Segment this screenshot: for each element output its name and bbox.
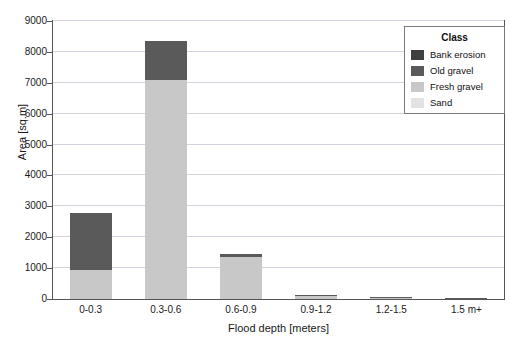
bar-segment[interactable]: [220, 254, 262, 258]
y-tick-label: 0: [0, 294, 47, 304]
bar-segment[interactable]: [70, 270, 112, 299]
y-tick-label: 8000: [0, 47, 47, 57]
legend-item[interactable]: Fresh gravel: [411, 79, 498, 94]
x-axis-title: Flood depth [meters]: [52, 322, 505, 334]
legend-swatch-icon: [411, 82, 424, 92]
legend-item-label: Sand: [430, 98, 452, 108]
legend-title: Class: [411, 32, 498, 43]
gridline: [53, 205, 504, 206]
y-tick-label: 3000: [0, 201, 47, 211]
y-tick-label: 5000: [0, 140, 47, 150]
x-tick-label: 0.3-0.6: [150, 304, 181, 315]
bar-group[interactable]: [145, 21, 187, 299]
bar-group[interactable]: [220, 21, 262, 299]
x-tick-label: 0-0.3: [79, 304, 102, 315]
x-tick-label: 1.2-1.5: [376, 304, 407, 315]
bar-group[interactable]: [70, 21, 112, 299]
gridline: [53, 144, 504, 145]
legend-item[interactable]: Sand: [411, 95, 498, 110]
bar-segment[interactable]: [145, 41, 187, 80]
y-tick-label: 4000: [0, 170, 47, 180]
gridline: [53, 267, 504, 268]
legend-swatch-icon: [411, 98, 424, 108]
y-tick-label: 6000: [0, 109, 47, 119]
y-tick-label: 1000: [0, 263, 47, 273]
legend-item[interactable]: Bank erosion: [411, 47, 498, 62]
bar-segment[interactable]: [295, 295, 337, 296]
x-tick-label: 1.5 m+: [451, 304, 482, 315]
legend-item-label: Fresh gravel: [430, 82, 483, 92]
x-tick-label: 0.9-1.2: [301, 304, 332, 315]
gridline: [53, 174, 504, 175]
legend-items: Bank erosionOld gravelFresh gravelSand: [411, 47, 498, 110]
bar-segment[interactable]: [145, 80, 187, 299]
y-tick-label: 7000: [0, 78, 47, 88]
bar-segment[interactable]: [445, 298, 487, 299]
gridline: [53, 236, 504, 237]
bar-segment[interactable]: [295, 296, 337, 299]
y-tick-label: 2000: [0, 232, 47, 242]
bar-segment[interactable]: [70, 213, 112, 270]
bar-segment[interactable]: [370, 297, 412, 298]
bar-group[interactable]: [295, 21, 337, 299]
x-tick-label: 0.6-0.9: [225, 304, 256, 315]
gridline: [53, 20, 504, 21]
y-axis-ticks: 0100020003000400050006000700080009000: [0, 20, 47, 300]
legend-swatch-icon: [411, 66, 424, 76]
bar-segment[interactable]: [220, 257, 262, 299]
legend-item[interactable]: Old gravel: [411, 63, 498, 78]
legend: Class Bank erosionOld gravelFresh gravel…: [404, 26, 505, 114]
x-axis-ticks: 0-0.30.3-0.60.6-0.90.9-1.21.2-1.51.5 m+: [52, 304, 505, 320]
legend-item-label: Bank erosion: [430, 50, 485, 60]
legend-item-label: Old gravel: [430, 66, 473, 76]
legend-swatch-icon: [411, 50, 424, 60]
y-tick-label: 9000: [0, 16, 47, 26]
stacked-bar-chart: Area [sq.m] 0100020003000400050006000700…: [0, 0, 515, 346]
